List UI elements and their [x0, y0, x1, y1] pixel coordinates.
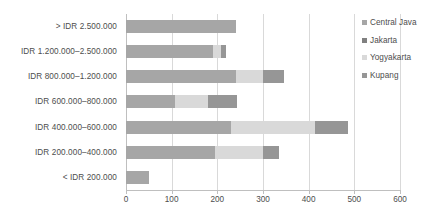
bar-row	[126, 140, 400, 165]
x-tick-label: 600	[393, 195, 407, 204]
legend-label: Kupang	[370, 71, 399, 80]
bar-segment	[126, 70, 236, 83]
bar-segment	[236, 70, 263, 83]
stacked-bar	[126, 20, 400, 33]
x-tick	[126, 190, 127, 194]
legend-item[interactable]: Kupang	[362, 71, 440, 80]
bar-segment	[263, 70, 284, 83]
bar-row	[126, 64, 400, 89]
bar-segment	[213, 45, 221, 58]
x-tick	[217, 190, 218, 194]
legend-item[interactable]: Jakarta	[362, 36, 440, 45]
legend-label: Jakarta	[370, 36, 397, 45]
stacked-bar-chart: > IDR 2.500.000IDR 1.200.000–2.500.000ID…	[0, 0, 440, 221]
category-label: IDR 200.000–400.000	[0, 140, 122, 165]
bar-segment	[208, 95, 237, 108]
bar-segment	[126, 95, 175, 108]
plot-area	[126, 14, 400, 190]
stacked-bar	[126, 121, 400, 134]
category-label: IDR 800.000–1.200.000	[0, 64, 122, 89]
x-tick	[354, 190, 355, 194]
x-tick-label: 400	[302, 195, 316, 204]
stacked-bar	[126, 45, 400, 58]
stacked-bar	[126, 95, 400, 108]
category-label: IDR 400.000–600.000	[0, 115, 122, 140]
category-label: > IDR 2.500.000	[0, 14, 122, 39]
x-tick-label: 100	[165, 195, 179, 204]
legend-swatch-icon	[362, 55, 367, 60]
legend-swatch-icon	[362, 20, 367, 25]
bar-row	[126, 14, 400, 39]
bar-row	[126, 89, 400, 114]
category-label: IDR 1.200.000–2.500.000	[0, 39, 122, 64]
x-axis-tick-labels: 0100200300400500600	[126, 195, 400, 209]
category-label: IDR 600.000–800.000	[0, 89, 122, 114]
bar-segment	[126, 20, 236, 33]
category-axis: > IDR 2.500.000IDR 1.200.000–2.500.000ID…	[0, 14, 122, 190]
stacked-bar	[126, 146, 400, 159]
bar-segment	[231, 121, 315, 134]
legend-item[interactable]: Yogyakarta	[362, 53, 440, 62]
x-axis-ticks	[126, 190, 400, 194]
x-tick-label: 300	[256, 195, 270, 204]
bar-segment	[263, 146, 279, 159]
x-tick-label: 500	[347, 195, 361, 204]
bar-row	[126, 165, 400, 190]
legend-label: Central Java	[370, 18, 417, 27]
bar-segment	[175, 95, 208, 108]
bar-segment	[215, 146, 263, 159]
bar-row	[126, 115, 400, 140]
bar-segment	[126, 171, 149, 184]
stacked-bar	[126, 70, 400, 83]
legend-swatch-icon	[362, 38, 367, 43]
bar-segment	[315, 121, 349, 134]
legend-swatch-icon	[362, 73, 367, 78]
x-tick-label: 200	[210, 195, 224, 204]
bar-segment	[126, 45, 213, 58]
bar-row	[126, 39, 400, 64]
legend-item[interactable]: Central Java	[362, 18, 440, 27]
category-label: < IDR 200.000	[0, 165, 122, 190]
stacked-bar	[126, 171, 400, 184]
x-tick	[263, 190, 264, 194]
x-tick	[172, 190, 173, 194]
legend-label: Yogyakarta	[370, 53, 411, 62]
bar-segment	[221, 45, 227, 58]
chart-legend: Central JavaJakartaYogyakartaKupang	[362, 18, 440, 80]
x-tick	[309, 190, 310, 194]
x-tick	[400, 190, 401, 194]
bar-segment	[126, 146, 215, 159]
bar-series-group	[126, 14, 400, 190]
bar-segment	[126, 121, 231, 134]
x-tick-label: 0	[124, 195, 129, 204]
